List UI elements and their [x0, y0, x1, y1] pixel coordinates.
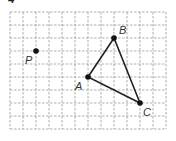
coordinate-grid-diagram: PABC	[0, 0, 176, 141]
point-p-dot	[33, 48, 39, 54]
point-b-dot	[111, 35, 117, 41]
point-b-label: B	[119, 24, 126, 36]
point-p-label: P	[25, 54, 33, 66]
point-c-dot	[137, 100, 143, 106]
point-a-dot	[85, 74, 91, 80]
point-a-label: A	[74, 80, 82, 92]
point-c-label: C	[143, 106, 151, 118]
